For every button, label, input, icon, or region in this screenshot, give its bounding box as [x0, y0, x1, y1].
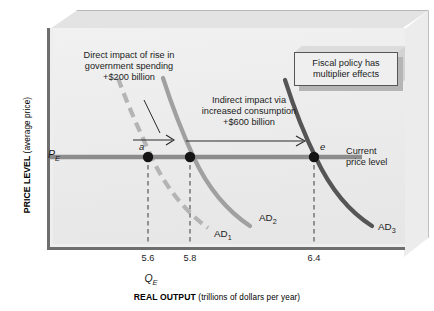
- curve-label-ad1-sub: 1: [228, 233, 232, 242]
- annotation-direct-impact: Direct impact of rise in government spen…: [64, 50, 194, 84]
- curve-label-ad2: AD2: [259, 212, 277, 227]
- x-axis-title: REAL OUTPUT (trillions of dollars per ye…: [0, 292, 434, 302]
- current-price-line1: Current: [346, 146, 416, 157]
- equilibrium-point-e: [309, 152, 319, 162]
- curve-label-ad3-sub: 3: [392, 226, 396, 235]
- point-label-a: a: [139, 141, 144, 153]
- x-tick-6-4: 6.4: [296, 253, 332, 264]
- callout-fiscal-policy: Fiscal policy has multiplier effects: [294, 52, 398, 86]
- annotation-indirect-impact-line1: Indirect impact via: [184, 95, 314, 106]
- y-axis-title-bold: PRICE LEVEL: [22, 156, 32, 213]
- y-axis-title: PRICE LEVEL (average price): [22, 75, 32, 235]
- equilibrium-point-mid: [185, 152, 195, 162]
- callout-line2: multiplier effects: [312, 69, 379, 81]
- curve-label-ad3: AD3: [378, 221, 396, 236]
- callout-face: Fiscal policy has multiplier effects: [294, 52, 398, 86]
- annotation-direct-impact-line3: +$200 billion: [64, 72, 194, 83]
- annotation-indirect-impact: Indirect impact via increased consumptio…: [184, 95, 314, 129]
- annotation-current-price-level: Current price level: [346, 146, 416, 168]
- annotation-indirect-impact-line2: increased consumption: [184, 106, 314, 117]
- x-axis-value-qe: QE: [133, 272, 169, 287]
- annotation-indirect-impact-line3: +$600 billion: [184, 117, 314, 128]
- curve-label-ad3-text: AD: [378, 221, 392, 232]
- curve-label-ad2-sub: 2: [273, 217, 277, 226]
- equilibrium-point-a: [143, 152, 153, 162]
- y-axis-title-paren: (average price): [23, 97, 32, 154]
- point-label-e: e: [320, 141, 325, 153]
- leader-line-direct-impact: [144, 100, 160, 133]
- arrow-indirect-impact: [186, 136, 305, 146]
- figure-root: Direct impact of rise in government spen…: [0, 0, 434, 311]
- x-axis-title-bold: REAL OUTPUT: [134, 292, 196, 302]
- x-tick-5-8: 5.8: [172, 253, 208, 264]
- annotation-direct-impact-line1: Direct impact of rise in: [64, 50, 194, 61]
- annotation-direct-impact-line2: government spending: [64, 61, 194, 72]
- curve-label-ad1-text: AD: [214, 228, 228, 239]
- callout-line1: Fiscal policy has: [312, 58, 379, 70]
- qe-main: Q: [144, 272, 152, 284]
- x-axis-title-paren: (trillions of dollars per year): [198, 293, 300, 302]
- pe-sub: E: [55, 154, 60, 163]
- x-tick-5-6: 5.6: [130, 253, 166, 264]
- current-price-line2: price level: [346, 157, 416, 168]
- callout-text: Fiscal policy has multiplier effects: [312, 58, 379, 81]
- pe-main: P: [48, 148, 55, 160]
- curve-label-ad2-text: AD: [259, 212, 273, 223]
- y-axis-value-pe: PE: [48, 148, 60, 163]
- curve-label-ad1: AD1: [214, 228, 232, 243]
- qe-sub: E: [153, 278, 158, 287]
